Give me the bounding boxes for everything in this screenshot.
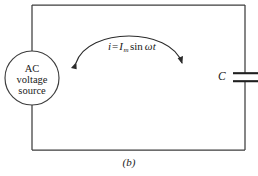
capacitor-label: C — [218, 70, 226, 82]
source-label-line-1: AC — [5, 63, 59, 74]
circuit-loop — [32, 5, 245, 150]
source-label-line-3: source — [5, 85, 59, 96]
figure-caption: (b) — [0, 157, 258, 169]
sine-function: sin — [128, 40, 143, 52]
current-equation-label: i=Imsinωt — [108, 41, 156, 53]
omega-t-term: ωt — [143, 40, 156, 52]
current-amplitude-subscript: m — [123, 46, 128, 54]
ac-capacitor-circuit-figure: AC voltage source i=Imsinωt C (b) — [0, 0, 258, 176]
capacitor-symbol — [233, 73, 258, 81]
source-label-line-2: voltage — [5, 74, 59, 85]
ac-voltage-source-label: AC voltage source — [5, 63, 59, 96]
